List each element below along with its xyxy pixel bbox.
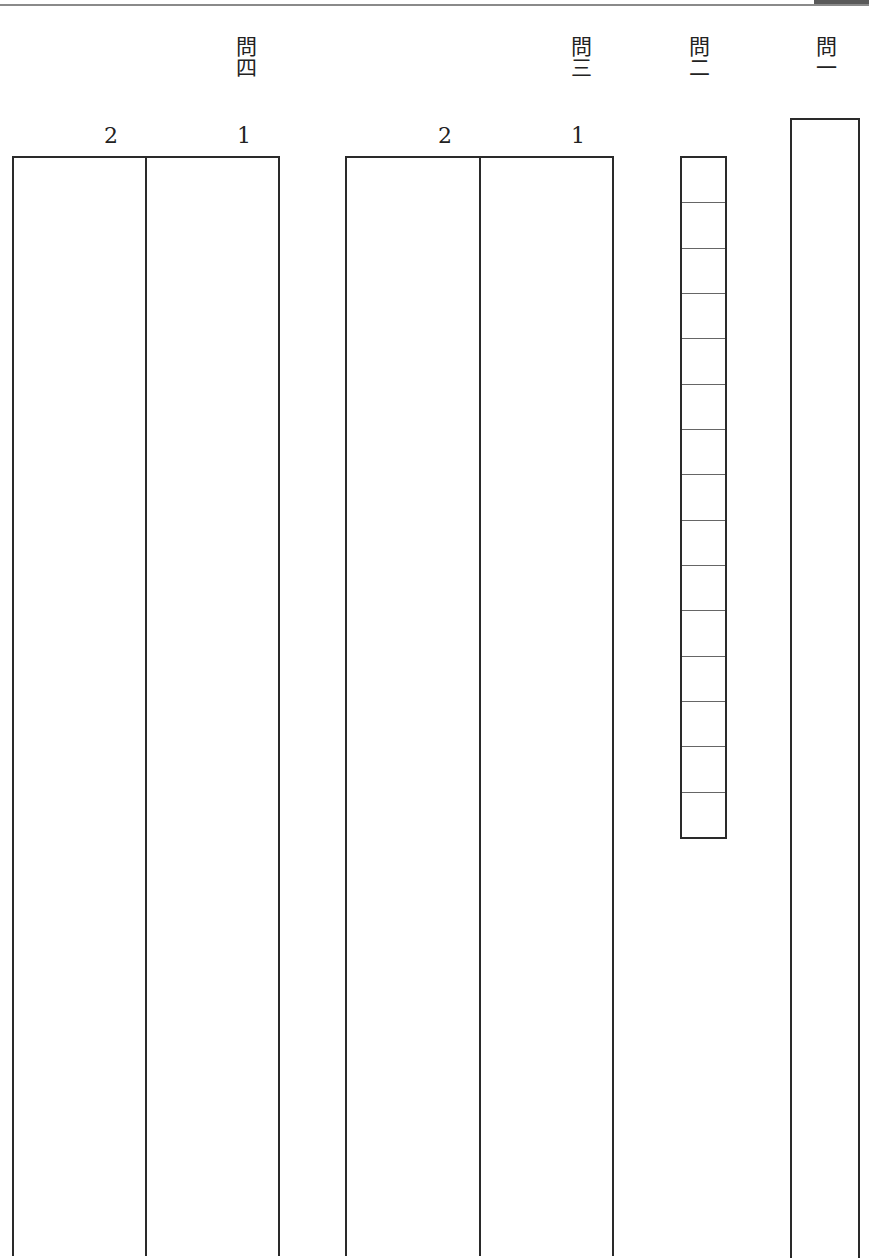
top-rule: [0, 4, 869, 6]
question-4-sub-label-1: 1: [232, 124, 256, 148]
question-1-label: 問一: [812, 36, 836, 78]
grid-cell-14[interactable]: [682, 747, 725, 792]
question-3-sub-label-2: 2: [433, 124, 457, 148]
question-2-label: 問二: [685, 36, 709, 78]
question-4-answer-2[interactable]: [14, 158, 145, 1256]
grid-cell-12[interactable]: [682, 657, 725, 702]
question-3-sub-label-1: 1: [566, 124, 590, 148]
question-2-character-grid: [680, 156, 727, 839]
grid-cell-1[interactable]: [682, 158, 725, 203]
question-4-label: 問四: [232, 36, 256, 78]
question-3-label: 問三: [567, 36, 591, 78]
grid-cell-2[interactable]: [682, 203, 725, 248]
question-3-answer-1[interactable]: [481, 158, 612, 1256]
question-4-sub-label-2: 2: [99, 124, 123, 148]
grid-cell-6[interactable]: [682, 385, 725, 430]
grid-cell-5[interactable]: [682, 339, 725, 384]
grid-cell-8[interactable]: [682, 475, 725, 520]
grid-cell-9[interactable]: [682, 521, 725, 566]
grid-cell-7[interactable]: [682, 430, 725, 475]
grid-cell-15[interactable]: [682, 793, 725, 837]
grid-cell-3[interactable]: [682, 249, 725, 294]
question-4-answer-1[interactable]: [147, 158, 278, 1256]
grid-cell-13[interactable]: [682, 702, 725, 747]
question-1-answer-box[interactable]: [790, 118, 860, 1258]
question-3-answer-box: [345, 156, 614, 1256]
grid-cell-10[interactable]: [682, 566, 725, 611]
grid-cell-11[interactable]: [682, 611, 725, 656]
question-3-answer-2[interactable]: [347, 158, 479, 1256]
grid-cell-4[interactable]: [682, 294, 725, 339]
question-4-answer-box: [12, 156, 280, 1256]
corner-tab: [814, 0, 869, 4]
